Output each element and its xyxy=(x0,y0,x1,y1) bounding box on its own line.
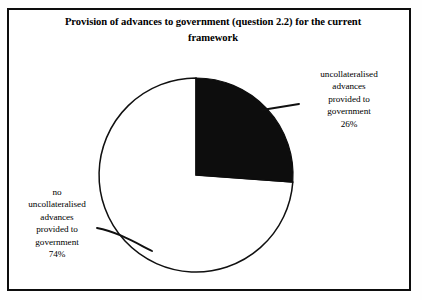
pie-label-left-line-5: government xyxy=(10,236,104,248)
pie-label-right-line-1: uncollateralised xyxy=(299,68,399,80)
pie-label-left-line-3: advances xyxy=(10,211,104,223)
pie-label-left-line-2: uncollateralised xyxy=(10,198,104,210)
pie-label-left-line-4: provided to xyxy=(10,223,104,235)
pie-label-left-line-1: no xyxy=(10,186,104,198)
pie-label-no-uncollateralised-advances: no uncollateralised advances provided to… xyxy=(10,186,104,260)
leader-line-right xyxy=(262,104,299,110)
pie-label-right-line-3: provided to xyxy=(299,93,399,105)
pie-label-right-line-2: advances xyxy=(299,80,399,92)
pie-label-left-value: 74% xyxy=(10,248,104,260)
pie-slice-uncollateralised-advances xyxy=(196,78,293,182)
figure-container: Provision of advances to government (que… xyxy=(0,0,422,300)
pie-label-uncollateralised-advances: uncollateralised advances provided to go… xyxy=(299,68,399,130)
pie-label-right-value: 26% xyxy=(299,118,399,130)
pie-label-right-line-4: government xyxy=(299,105,399,117)
